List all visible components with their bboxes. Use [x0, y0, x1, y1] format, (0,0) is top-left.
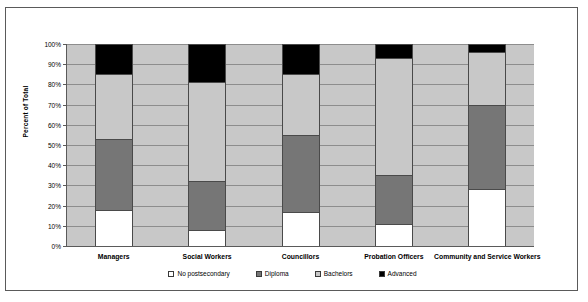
y-axis-tick-label: 20% — [48, 202, 61, 209]
legend-entry[interactable]: No postsecondary — [168, 270, 229, 277]
legend-swatch-icon — [315, 271, 321, 277]
bar-segment[interactable] — [188, 44, 226, 82]
bar-segment[interactable] — [468, 105, 506, 190]
legend-label: Diploma — [265, 270, 289, 277]
y-axis-tick-mark — [63, 84, 67, 85]
bar-segment[interactable] — [95, 44, 133, 74]
bar-segment[interactable] — [282, 74, 320, 135]
bar-segment[interactable] — [375, 224, 413, 246]
chart-legend: No postsecondaryDiplomaBachelorsAdvanced — [6, 270, 579, 277]
y-axis-tick-label: 90% — [48, 61, 61, 68]
bar-segment[interactable] — [375, 44, 413, 58]
y-axis-tick-mark — [63, 44, 67, 45]
bar-segment[interactable] — [188, 181, 226, 229]
legend-swatch-icon — [256, 271, 262, 277]
y-axis-tick-mark — [63, 185, 67, 186]
bar-segment[interactable] — [375, 58, 413, 175]
bar-segment[interactable] — [282, 212, 320, 246]
plot-area: 0%10%20%30%40%50%60%70%80%90%100% Manage… — [66, 44, 534, 246]
y-axis-tick-mark — [63, 206, 67, 207]
legend-entry[interactable]: Bachelors — [315, 270, 353, 277]
y-axis-tick-mark — [63, 246, 67, 247]
y-axis-tick-label: 100% — [44, 41, 61, 48]
legend-label: No postsecondary — [177, 270, 229, 277]
y-axis-tick-label: 70% — [48, 101, 61, 108]
y-axis-tick-label: 40% — [48, 162, 61, 169]
y-axis-tick-mark — [63, 64, 67, 65]
legend-entry[interactable]: Advanced — [379, 270, 417, 277]
y-axis-tick-mark — [63, 226, 67, 227]
bar-segment[interactable] — [282, 44, 320, 74]
y-axis-tick-mark — [63, 165, 67, 166]
y-axis-tick-label: 30% — [48, 182, 61, 189]
bar-segment[interactable] — [188, 230, 226, 246]
y-axis-tick-mark — [63, 105, 67, 106]
bar-segment[interactable] — [95, 210, 133, 246]
bar-segment[interactable] — [95, 139, 133, 210]
bar-segment[interactable] — [468, 44, 506, 52]
bar-segment[interactable] — [188, 82, 226, 181]
legend-label: Advanced — [388, 270, 417, 277]
y-axis-tick-label: 50% — [48, 142, 61, 149]
chart-figure: Percent of Total 0%10%20%30%40%50%60%70%… — [5, 7, 578, 291]
legend-swatch-icon — [379, 271, 385, 277]
y-axis-tick-label: 60% — [48, 121, 61, 128]
bar-segment[interactable] — [95, 74, 133, 139]
y-axis-tick-mark — [63, 125, 67, 126]
legend-swatch-icon — [168, 271, 174, 277]
bar-segment[interactable] — [282, 135, 320, 212]
legend-label: Bachelors — [324, 270, 353, 277]
y-axis-tick-label: 10% — [48, 222, 61, 229]
x-axis-category-label: Community and Service Workers — [427, 252, 547, 261]
legend-entry[interactable]: Diploma — [256, 270, 289, 277]
gridline — [67, 246, 534, 247]
bar-segment[interactable] — [468, 52, 506, 105]
y-axis-title: Percent of Total — [22, 57, 29, 167]
bar-segment[interactable] — [468, 189, 506, 246]
y-axis-tick-mark — [63, 145, 67, 146]
bar-segment[interactable] — [375, 175, 413, 223]
y-axis-tick-label: 80% — [48, 81, 61, 88]
y-axis-tick-label: 0% — [52, 243, 61, 250]
